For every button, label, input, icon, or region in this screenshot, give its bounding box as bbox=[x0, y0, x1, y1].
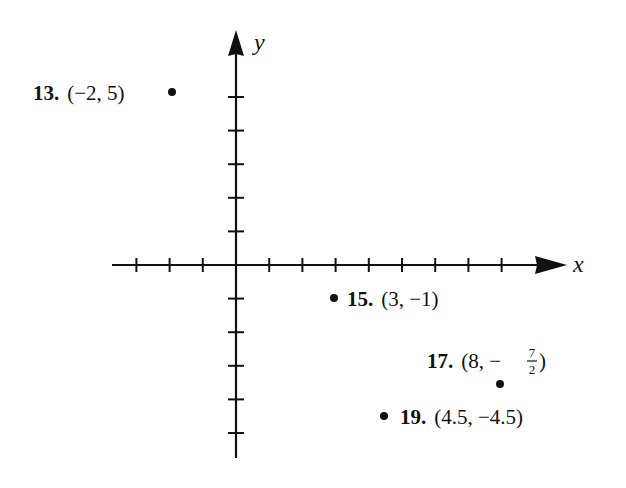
x-axis-arrow-icon bbox=[535, 256, 567, 274]
point-17-label: 17. (8, − bbox=[427, 349, 501, 373]
point-13-coord: (−2, 5) bbox=[67, 81, 124, 105]
point-15-label: 15. (3, −1) bbox=[347, 287, 439, 311]
point-15: 15. (3, −1) bbox=[330, 287, 439, 311]
point-13: 13. (−2, 5) bbox=[33, 81, 176, 105]
point-17-dot bbox=[496, 380, 504, 388]
point-15-number: 15. bbox=[347, 287, 373, 311]
point-17-number: 17. bbox=[427, 349, 453, 373]
point-17-fraction-numerator: 7 bbox=[529, 345, 536, 360]
coordinate-plane: x y 13. (−2, 5) 15. (3, −1) 17. (8, − 7 … bbox=[0, 0, 626, 488]
point-17-coord-close: ) bbox=[539, 349, 546, 373]
y-axis-label: y bbox=[252, 29, 265, 55]
point-13-number: 13. bbox=[33, 81, 59, 105]
point-15-coord: (3, −1) bbox=[381, 287, 438, 311]
y-axis: y bbox=[228, 29, 265, 458]
point-19-number: 19. bbox=[400, 405, 426, 429]
y-axis-arrow-icon bbox=[228, 30, 244, 56]
point-19-dot bbox=[380, 412, 388, 420]
point-19-label: 19. (4.5, −4.5) bbox=[400, 405, 523, 429]
point-13-dot bbox=[168, 88, 176, 96]
x-axis-label: x bbox=[572, 251, 584, 277]
point-13-label: 13. (−2, 5) bbox=[33, 81, 125, 105]
point-17-coord-open: (8, − bbox=[461, 349, 501, 373]
point-17-fraction-denominator: 2 bbox=[529, 362, 536, 377]
point-19-coord: (4.5, −4.5) bbox=[434, 405, 523, 429]
point-19: 19. (4.5, −4.5) bbox=[380, 405, 523, 429]
point-17: 17. (8, − 7 2 ) bbox=[427, 345, 546, 388]
x-axis: x bbox=[112, 251, 584, 277]
point-15-dot bbox=[330, 294, 338, 302]
